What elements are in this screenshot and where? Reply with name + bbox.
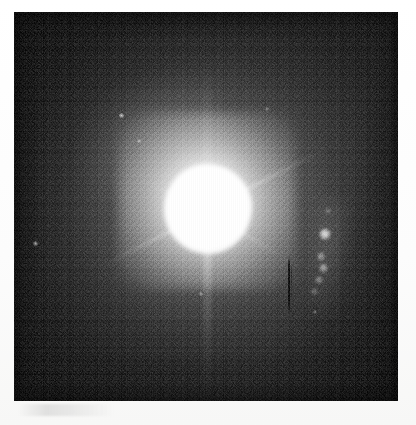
paper-smudge-bottom-margin-icon [18,404,114,416]
scanline-layer [14,12,398,401]
screenshot-root: Optical image of a bright unresolved nuc… [0,0,416,425]
astronomical-image-frame [14,12,398,401]
